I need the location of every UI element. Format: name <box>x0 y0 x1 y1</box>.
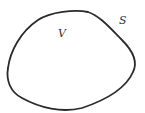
surface-label: S <box>119 14 127 27</box>
surface-boundary <box>8 11 136 110</box>
volume-label: V <box>58 27 66 40</box>
